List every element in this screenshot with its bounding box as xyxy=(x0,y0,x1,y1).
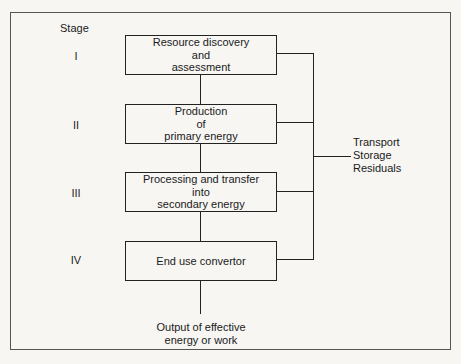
stage-box-secondary-energy: Processing and transfer into secondary e… xyxy=(125,172,277,212)
side-label-transport-storage-residuals: Transport Storage Residuals xyxy=(353,136,401,175)
stage-numeral-2: II xyxy=(61,119,91,132)
connector-3-4 xyxy=(200,212,201,242)
side-label-connector xyxy=(313,156,351,157)
stage-box-primary-energy: Production of primary energy xyxy=(125,104,277,144)
bus-tap-2 xyxy=(277,122,313,123)
connector-2-3 xyxy=(200,144,201,173)
stage-box-end-use: End use convertor xyxy=(125,241,277,281)
stage-numeral-3: III xyxy=(61,187,91,200)
stage-header: Stage xyxy=(60,22,89,35)
output-label: Output of effective energy or work xyxy=(150,321,252,347)
bus-tap-1 xyxy=(277,53,313,54)
stage-numeral-4: IV xyxy=(61,254,91,267)
bus-tap-4 xyxy=(277,259,314,260)
stage-numeral-1: I xyxy=(61,50,91,63)
connector-1-2 xyxy=(200,75,201,105)
bus-tap-3 xyxy=(277,191,313,192)
stage-box-resource-discovery: Resource discovery and assessment xyxy=(125,35,277,75)
connector-output xyxy=(200,280,201,314)
